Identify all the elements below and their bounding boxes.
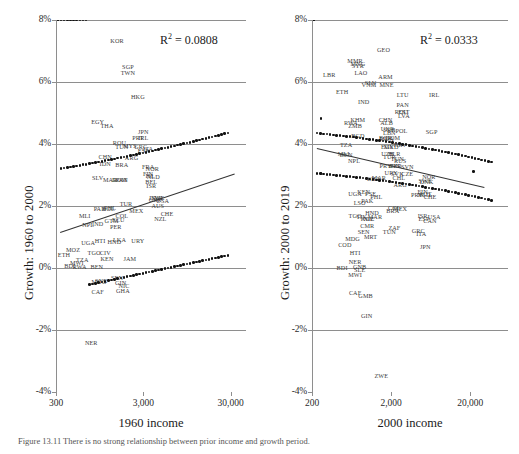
country-label: TWN	[121, 69, 135, 76]
country-label: SGP	[426, 127, 438, 134]
y-tick-label: 8%	[22, 14, 51, 24]
data-point	[355, 176, 358, 179]
country-label: LAO	[354, 69, 367, 76]
data-point	[320, 117, 323, 120]
country-label: IRL	[429, 90, 439, 97]
country-label: GEO	[377, 46, 390, 53]
country-label: PAN	[397, 101, 409, 108]
country-label: THA	[100, 122, 113, 129]
data-point	[454, 153, 457, 156]
data-point	[391, 141, 394, 144]
data-point	[332, 174, 335, 177]
data-point	[201, 138, 204, 141]
country-label: SWE	[419, 176, 432, 183]
country-label: KOR	[110, 37, 123, 44]
data-point	[316, 172, 319, 175]
country-label: VNM	[362, 81, 377, 88]
data-point	[75, 20, 78, 21]
data-point	[418, 146, 421, 149]
data-point	[431, 148, 434, 151]
data-point	[145, 151, 148, 154]
y-tick-label: 4%	[22, 138, 51, 148]
figure-caption: Figure 13.11 There is no strong relation…	[18, 436, 504, 447]
data-point	[189, 141, 192, 144]
data-point	[408, 144, 411, 147]
data-point	[471, 156, 474, 159]
chart-panel-left: ETHBDIMOZMWIRWATZAUGANERMLINPLTGOBENCAFM…	[0, 0, 259, 420]
country-label: TZA	[76, 255, 88, 262]
country-label: SYR	[352, 61, 364, 68]
y-tick-label: 6%	[278, 76, 307, 86]
data-point	[205, 259, 208, 262]
data-point	[444, 151, 447, 154]
country-label: ISR	[146, 181, 156, 188]
data-point	[326, 173, 329, 176]
data-point	[451, 191, 454, 194]
data-point	[401, 143, 404, 146]
data-point	[359, 137, 362, 140]
country-label: LBR	[323, 71, 335, 78]
data-point	[145, 271, 148, 274]
y-tick-label: 6%	[22, 76, 51, 86]
plot-area-right: GEOMMRMNGSYRLAOARMLBRSLVVNMMNEETHLTUIRLI…	[312, 20, 508, 392]
data-point	[451, 152, 454, 155]
country-label: MWI	[348, 270, 362, 277]
y-axis-label-left: Growth: 1960 to 2000	[22, 185, 37, 300]
data-point	[480, 159, 483, 162]
data-point	[480, 197, 483, 200]
data-point	[405, 183, 408, 186]
data-point	[329, 133, 332, 136]
y-tick-label: -4%	[278, 386, 307, 396]
r-squared-annotation-left: R2 = 0.0808	[160, 32, 218, 48]
data-point	[116, 277, 119, 280]
country-label: BRA	[115, 161, 128, 168]
country-label: ITA	[416, 230, 426, 237]
data-point	[421, 185, 424, 188]
data-point	[60, 167, 63, 170]
data-point	[164, 267, 167, 270]
country-label: PRT	[411, 190, 422, 197]
plot-area-left: ETHBDIMOZMWIRWATZAUGANERMLINPLTGOBENCAFM…	[56, 20, 246, 392]
x-tick-mark	[56, 392, 57, 396]
country-label: MNE	[380, 81, 394, 88]
country-label: ZWE	[374, 371, 388, 378]
data-point	[382, 179, 385, 182]
data-point	[434, 149, 437, 152]
data-point	[375, 179, 378, 182]
data-point	[467, 194, 470, 197]
data-point	[464, 155, 467, 158]
country-label: RWA	[73, 263, 87, 270]
data-point	[421, 146, 424, 149]
country-label: BOL	[102, 205, 115, 212]
x-tick-label: 300	[26, 398, 86, 408]
data-point	[444, 189, 447, 192]
data-point	[484, 159, 487, 162]
country-label: COL	[115, 211, 128, 218]
country-label: URY	[131, 237, 144, 244]
country-label: JPN	[420, 242, 431, 249]
x-tick-label: 30,000	[201, 398, 261, 408]
data-point	[398, 182, 401, 185]
y-axis-line	[312, 20, 313, 392]
data-point	[329, 173, 332, 176]
country-label: UGA	[81, 238, 95, 245]
x-tick-label: 20,000	[440, 398, 500, 408]
data-point	[474, 195, 477, 198]
country-label: HKG	[131, 92, 145, 99]
country-label: BRA	[386, 206, 399, 213]
country-label: PAK	[361, 197, 373, 204]
country-label: MEX	[129, 206, 143, 213]
data-point	[208, 136, 211, 139]
data-point	[378, 139, 381, 142]
data-point	[365, 138, 368, 141]
country-label: TUN	[383, 228, 396, 235]
country-label: GIN	[361, 311, 372, 318]
country-label: CHE	[161, 209, 174, 216]
data-point	[101, 160, 104, 163]
data-point	[205, 137, 208, 140]
data-point	[164, 147, 167, 150]
y-tick-label: -2%	[22, 324, 51, 334]
data-point	[326, 133, 329, 136]
data-point	[223, 132, 226, 135]
data-point	[388, 180, 391, 183]
